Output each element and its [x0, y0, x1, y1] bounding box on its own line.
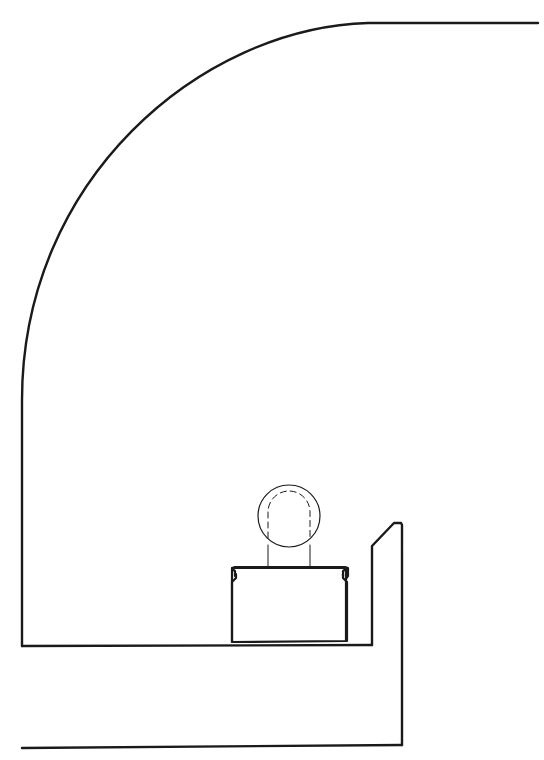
right-flange [372, 523, 402, 745]
curved-housing-outline [22, 23, 538, 646]
round-element-dashed-outline [268, 491, 310, 538]
diagram-canvas [0, 0, 544, 760]
bottom-line [22, 745, 402, 748]
cable-duct [232, 567, 348, 642]
floor-line [22, 645, 372, 646]
cable-duct-lip [232, 568, 347, 642]
round-element [258, 485, 320, 547]
